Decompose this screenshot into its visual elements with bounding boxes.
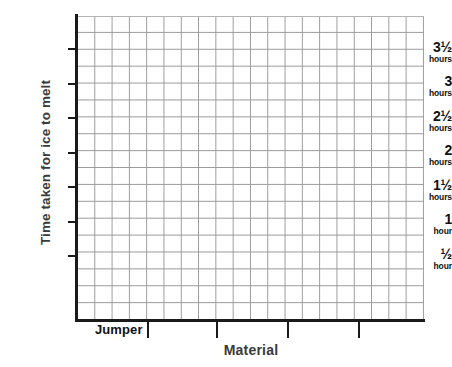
x-axis-category-divider xyxy=(147,322,149,338)
y-axis-tick xyxy=(68,83,78,85)
x-axis-title: Material xyxy=(78,342,424,358)
y-tick-value: 3 xyxy=(394,74,452,88)
y-tick-unit: hours xyxy=(394,158,452,167)
y-tick-value: 1 xyxy=(394,212,452,226)
y-axis-tick-label: 3½ hours xyxy=(394,40,452,64)
y-axis-line xyxy=(75,14,78,322)
y-tick-unit: hour xyxy=(394,262,452,271)
y-tick-unit: hours xyxy=(394,55,452,64)
x-axis-category-divider xyxy=(287,322,289,338)
chart-figure: 3½ hours 3 hours 2½ hours 2 hours 1½ hou… xyxy=(0,0,452,367)
y-tick-value: 3½ xyxy=(394,40,452,54)
y-axis-tick-label: 1 hour xyxy=(394,212,452,236)
y-axis-tick-label: 2½ hours xyxy=(394,109,452,133)
y-axis-tick-label: 1½ hours xyxy=(394,178,452,202)
y-axis-tick xyxy=(68,48,78,50)
y-axis-tick-label: 3 hours xyxy=(394,74,452,98)
y-axis-tick-label: 2 hours xyxy=(394,143,452,167)
x-axis-category-label-jumper: Jumper xyxy=(95,322,143,337)
y-tick-unit: hours xyxy=(394,124,452,133)
y-tick-value: 2 xyxy=(394,143,452,157)
y-axis-tick xyxy=(68,255,78,257)
y-axis-tick xyxy=(68,152,78,154)
y-tick-value: 1½ xyxy=(394,178,452,192)
y-axis-title: Time taken for ice to melt xyxy=(38,43,53,283)
y-tick-value: 2½ xyxy=(394,109,452,123)
y-axis-tick xyxy=(68,186,78,188)
y-tick-unit: hour xyxy=(394,227,452,236)
grid-top-border xyxy=(78,16,424,17)
x-axis-category-divider xyxy=(358,322,360,338)
plot-area-grid xyxy=(78,16,424,320)
x-axis-category-divider xyxy=(216,322,218,338)
y-axis-tick-label: ½ hour xyxy=(394,247,452,271)
y-tick-value: ½ xyxy=(394,247,452,261)
y-axis-tick xyxy=(68,117,78,119)
y-tick-unit: hours xyxy=(394,89,452,98)
y-axis-tick xyxy=(68,221,78,223)
y-tick-unit: hours xyxy=(394,193,452,202)
